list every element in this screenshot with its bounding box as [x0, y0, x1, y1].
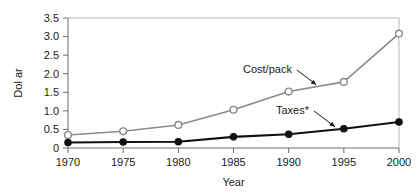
x-tick-label: 1970 — [56, 156, 80, 168]
data-point-marker — [65, 139, 71, 145]
data-point-marker — [175, 138, 181, 144]
data-point-marker — [285, 88, 292, 95]
data-point-marker — [340, 78, 347, 85]
x-tick-label: 1995 — [332, 156, 356, 168]
data-point-marker — [175, 122, 182, 129]
y-tick-label: 1.0 — [44, 105, 59, 117]
annotation-cost-pack: Cost/pack — [243, 63, 292, 75]
chart-figure: 00.51.01.52.02.53.03.5 19701975198019851… — [0, 0, 417, 195]
x-tick-label: 1990 — [276, 156, 300, 168]
y-tick-label: 3.0 — [44, 30, 59, 42]
y-tick-label: 3.5 — [44, 12, 59, 24]
y-tick-label: 2.0 — [44, 68, 59, 80]
y-tick-label: 2.5 — [44, 49, 59, 61]
y-axis-title: Dol ar — [12, 68, 24, 98]
data-point-marker — [120, 139, 126, 145]
x-axis-title: Year — [222, 176, 245, 188]
y-tick-label: 0 — [53, 142, 59, 154]
x-tick-label: 2000 — [387, 156, 411, 168]
x-tick-label: 1985 — [221, 156, 245, 168]
y-tick-label: 0.5 — [44, 123, 59, 135]
y-tick-label: 1.5 — [44, 86, 59, 98]
data-point-marker — [396, 119, 402, 125]
data-point-marker — [285, 131, 291, 137]
line-chart: 00.51.01.52.02.53.03.5 19701975198019851… — [0, 0, 417, 195]
annotation-taxes: Taxes* — [276, 104, 310, 116]
data-point-marker — [396, 30, 403, 37]
data-point-marker — [230, 134, 236, 140]
data-point-marker — [120, 128, 127, 135]
data-point-marker — [65, 132, 72, 139]
data-point-marker — [230, 106, 237, 113]
x-tick-label: 1975 — [111, 156, 135, 168]
data-point-marker — [341, 125, 347, 131]
x-tick-label: 1980 — [166, 156, 190, 168]
